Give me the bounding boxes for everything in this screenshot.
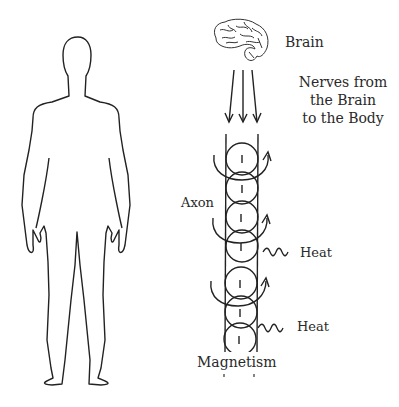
nerves-label-line1: Nerves from (287, 75, 399, 89)
magnetism-label: Magnetism (197, 355, 277, 369)
tick-marks (224, 374, 254, 377)
brain-icon (214, 19, 268, 60)
nerves-label-line2: the Brain (287, 93, 399, 107)
wavy-heat-icon (258, 248, 288, 332)
heat-label-2: Heat (297, 320, 329, 333)
down-arrow-icon (225, 70, 261, 122)
heat-label-1: Heat (300, 246, 332, 259)
nerves-label-line3: to the Body (287, 111, 399, 125)
axon-label: Axon (181, 196, 214, 209)
axon-column (224, 134, 258, 355)
brain-label: Brain (285, 35, 324, 49)
human-body-outline-icon (22, 37, 130, 385)
